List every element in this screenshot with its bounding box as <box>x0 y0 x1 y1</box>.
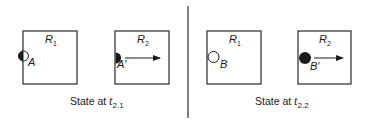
panel-right: R1 B R2 B′ State at t2.2 <box>207 31 351 110</box>
region-r1-label: R1 <box>229 33 241 47</box>
object-a-label: A <box>27 56 35 68</box>
object-b-prime-label: B′ <box>310 60 320 72</box>
region-box-r1-left: R1 A <box>19 31 78 84</box>
region-r2-label: R2 <box>137 33 149 47</box>
caption-left: State at t2.1 <box>70 94 124 110</box>
object-a-half-filled-icon <box>19 51 29 61</box>
panel-left: R1 A R2 A′ State at t2.1 <box>19 31 170 110</box>
region-box-r1-right: R1 B <box>207 31 261 84</box>
object-a-prime-label: A′ <box>116 58 127 70</box>
object-b-empty-circle-icon <box>208 52 219 63</box>
region-box-r2-right: R2 B′ <box>298 31 351 84</box>
region-r2-label: R2 <box>319 33 331 47</box>
state-diagram: R1 A R2 A′ State at t2.1 <box>0 0 373 126</box>
caption-right: State at t2.2 <box>255 94 309 110</box>
object-b-label: B <box>220 58 227 70</box>
region-r1-label: R1 <box>45 33 57 47</box>
region-box-r2-left: R2 A′ <box>115 31 169 84</box>
